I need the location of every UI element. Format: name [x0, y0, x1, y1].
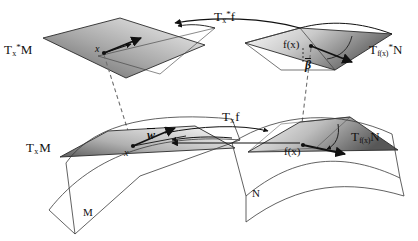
tangent-space-N-sub: f(x) [359, 136, 370, 145]
differential-geometry-figure: Tx*M Tx*f Tf(x)*N TxM Txf Tf(x)N x f(x) … [0, 0, 418, 241]
tangent-space-M-tail: M [39, 140, 51, 155]
tangent-space-M-sub: x [34, 147, 38, 156]
label-tangent-space-N: Tf(x)N [351, 128, 380, 145]
point-fx-upper: f(x) [283, 39, 300, 50]
label-cotangent-space-N: Tf(x)*N [369, 41, 402, 58]
label-tangent-space-M: TxM [26, 139, 51, 156]
label-cotangent-space-M: Tx*M [4, 41, 32, 58]
cotangent-map-tail: f [231, 9, 235, 24]
cotangent-space-M-tail: M [21, 42, 33, 57]
figure-canvas [0, 0, 418, 241]
tangent-map-sub: x [230, 116, 234, 125]
covector-beta-text: β [305, 58, 311, 72]
point-x-upper: x [95, 44, 99, 54]
manifold-N-label: N [252, 188, 260, 199]
vector-w-text: w [147, 128, 155, 142]
tangent-map-tail: f [235, 109, 239, 124]
tangent-space-N-tail: N [370, 129, 379, 144]
vector-w-label: w [147, 126, 155, 142]
point-x-lower: x [124, 148, 128, 158]
covector-beta-label: β [305, 56, 311, 72]
cotangent-space-N-sub: f(x) [377, 49, 388, 58]
cotangent-space-N-tail: N [393, 42, 402, 57]
cotangent-plane-M [43, 18, 205, 78]
manifold-M-label: M [83, 207, 93, 218]
label-tangent-map: Txf [222, 108, 239, 125]
point-fx-lower: f(x) [284, 146, 301, 157]
label-cotangent-map: Tx*f [214, 8, 235, 25]
